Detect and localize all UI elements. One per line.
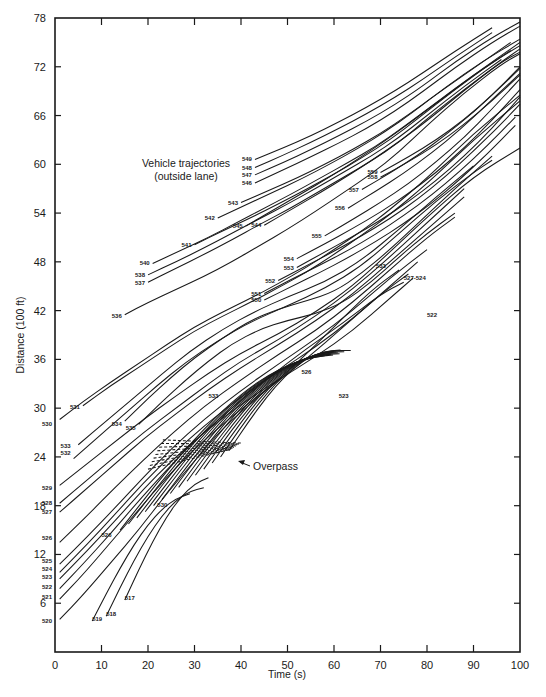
x-tick-label: 30 (188, 659, 200, 671)
trajectory-short (106, 488, 204, 616)
segment-label: 518 (106, 611, 117, 617)
vehicle-label: 536 (112, 313, 123, 319)
plot-frame (55, 18, 520, 652)
vehicle-label: 550 (251, 297, 262, 303)
trajectory-544 (264, 49, 520, 225)
trajectory-528 (60, 189, 465, 504)
overpass-label: Overpass (253, 460, 298, 472)
x-tick-label: 10 (95, 659, 107, 671)
x-tick-label: 0 (52, 659, 58, 671)
vehicle-label: 541 (181, 242, 192, 248)
vehicle-label: 557 (349, 187, 360, 193)
vehicle-label: 522 (42, 584, 53, 590)
y-tick-label: 66 (34, 110, 46, 122)
y-tick-label: 78 (34, 12, 46, 24)
y-tick-label: 30 (34, 402, 46, 414)
vehicle-label: 520 (42, 618, 53, 624)
segment-label: 522 (427, 312, 438, 318)
trajectory-542 (218, 39, 520, 218)
y-tick-label: 54 (34, 207, 46, 219)
x-tick-label: 90 (467, 659, 479, 671)
x-tick-label: 20 (142, 659, 154, 671)
trajectory-546 (255, 26, 520, 183)
overpass-arrow-icon (238, 460, 250, 466)
segment-label: 533 (376, 263, 387, 269)
vehicle-label: 545 (233, 223, 244, 229)
vehicle-label: 554 (284, 256, 295, 262)
chart-title: Vehicle trajectories (142, 157, 230, 169)
vehicle-label: 542 (205, 215, 216, 221)
vehicle-label: 523 (42, 574, 53, 580)
vehicle-label: 537 (135, 280, 146, 286)
segment-label: 519 (92, 616, 103, 622)
trajectory-529 (60, 148, 520, 485)
vehicle-label: 546 (242, 180, 253, 186)
trajectory-chart: 5205215225235245255265275285295305315325… (0, 0, 546, 697)
vehicle-label: 530 (42, 421, 53, 427)
vehicle-label: 549 (242, 156, 253, 162)
vehicle-label: 535 (126, 425, 137, 431)
vehicle-label: 529 (42, 485, 53, 491)
x-tick-label: 80 (421, 659, 433, 671)
vehicle-label: 547 (242, 172, 253, 178)
y-tick-label: 60 (34, 158, 46, 170)
trajectory-549 (255, 28, 492, 160)
vehicle-label: 553 (284, 265, 295, 271)
segment-label: 517 (125, 595, 136, 601)
vehicle-label: 532 (61, 450, 72, 456)
x-tick-label: 100 (511, 659, 529, 671)
y-tick-label: 42 (34, 305, 46, 317)
vehicle-label: 551 (251, 291, 262, 297)
vehicle-label: 533 (61, 443, 72, 449)
y-tick-label: 18 (34, 500, 46, 512)
y-tick-label: 12 (34, 548, 46, 560)
y-tick-label: 24 (34, 451, 46, 463)
segment-label: 533 (208, 393, 219, 399)
vehicle-label: 548 (242, 165, 253, 171)
x-axis-title: Time (s) (268, 668, 306, 680)
axes: 0102030405060708090100612182430364248546… (34, 12, 529, 671)
segment-label: 523 (339, 393, 350, 399)
x-tick-label: 60 (328, 659, 340, 671)
vehicle-label: 526 (42, 535, 53, 541)
y-axis-title: Distance (100 ft) (14, 296, 26, 373)
vehicle-label: 534 (112, 421, 123, 427)
x-tick-label: 40 (235, 659, 247, 671)
vehicle-label: 555 (312, 233, 323, 239)
segment-label: 526 (102, 532, 113, 538)
vehicle-label: 524 (42, 566, 53, 572)
vehicle-label: 531 (70, 404, 81, 410)
vehicle-label: 544 (251, 222, 262, 228)
y-tick-label: 72 (34, 61, 46, 73)
vehicle-label: 556 (335, 205, 346, 211)
trajectory-lines (60, 22, 520, 621)
vehicle-label: 543 (228, 200, 239, 206)
vehicle-label: 540 (140, 260, 151, 266)
segment-label: 530 (157, 502, 168, 508)
vehicle-label: 538 (135, 272, 146, 278)
y-tick-label: 36 (34, 353, 46, 365)
segment-label: 527-524 (404, 275, 427, 281)
x-tick-label: 70 (374, 659, 386, 671)
vehicle-label: 559 (367, 169, 378, 175)
trajectory-unlabeled (170, 353, 337, 494)
y-tick-label: 6 (40, 597, 46, 609)
y-tick-label: 48 (34, 256, 46, 268)
segment-label: 526 (301, 369, 312, 375)
trajectory-541 (195, 46, 521, 245)
vehicle-label: 552 (265, 278, 276, 284)
chart-subtitle: (outside lane) (154, 170, 218, 182)
